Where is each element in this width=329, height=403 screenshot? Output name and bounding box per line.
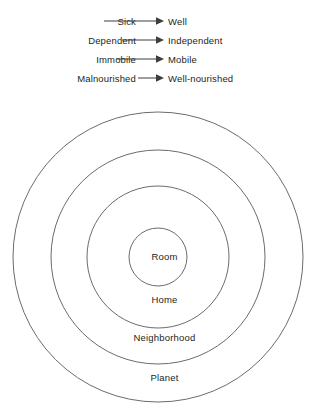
ring-label-room: Room bbox=[0, 251, 329, 262]
concentric-rings: Room Home Neighborhood Planet bbox=[0, 0, 329, 403]
ring-label-home: Home bbox=[0, 294, 329, 305]
ring-label-neighborhood: Neighborhood bbox=[0, 332, 329, 343]
ring-label-planet: Planet bbox=[0, 372, 329, 383]
diagram-canvas: Sick Well Dependent Independent Immobile bbox=[0, 0, 329, 403]
